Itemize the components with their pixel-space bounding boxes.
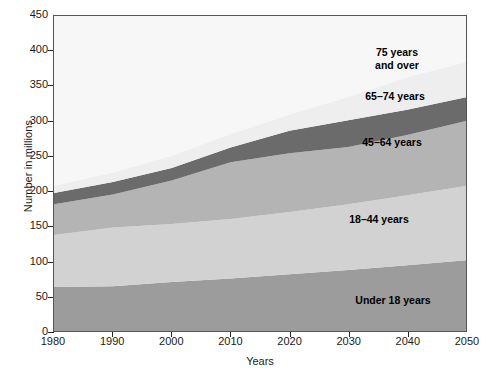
x-tick-label: 1980 — [28, 336, 78, 347]
series-label-line: and over — [375, 59, 419, 72]
x-tick-label: 1990 — [87, 336, 137, 347]
x-tick-label: 2000 — [146, 336, 196, 347]
x-tick-label: 2050 — [442, 336, 483, 347]
y-tick-label: 50 — [8, 291, 48, 302]
plot-area: 75 yearsand over65–74 years45–64 years18… — [53, 15, 467, 332]
x-tick-label: 2010 — [205, 336, 255, 347]
x-tick-mark — [408, 332, 409, 337]
y-tick-label: 400 — [8, 44, 48, 55]
y-tick-label: 150 — [8, 220, 48, 231]
y-tick-label: 200 — [8, 185, 48, 196]
y-tick-label: 350 — [8, 79, 48, 90]
series-label-line: 75 years — [375, 46, 419, 59]
x-tick-label: 2020 — [265, 336, 315, 347]
series-label-18-44-years: 18–44 years — [349, 213, 409, 226]
x-tick-mark — [290, 332, 291, 337]
y-tick-label: 450 — [8, 9, 48, 20]
x-tick-mark — [171, 332, 172, 337]
y-tick-label: 300 — [8, 115, 48, 126]
y-tick-label: 250 — [8, 150, 48, 161]
x-tick-mark — [230, 332, 231, 337]
y-axis-ticks: 050100150200250300350400450 — [0, 0, 48, 374]
x-axis-title: Years — [53, 355, 467, 367]
series-label-45-64-years: 45–64 years — [362, 136, 422, 149]
y-tick-label: 100 — [8, 256, 48, 267]
x-tick-mark — [112, 332, 113, 337]
series-label-75-years: 75 yearsand over — [375, 46, 419, 72]
y-tick-mark — [48, 332, 54, 333]
age-distribution-stacked-area-chart: Number in millions 050100150200250300350… — [0, 0, 483, 374]
x-tick-label: 2030 — [324, 336, 374, 347]
x-tick-mark — [349, 332, 350, 337]
series-label-under-18-years: Under 18 years — [355, 294, 430, 307]
x-tick-label: 2040 — [383, 336, 433, 347]
series-label-65-74-years: 65–74 years — [365, 90, 425, 103]
